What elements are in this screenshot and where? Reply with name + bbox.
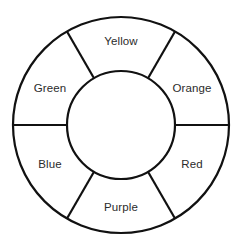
sector-label-yellow: Yellow <box>104 36 137 48</box>
spoke-300deg <box>148 172 175 219</box>
spoke-120deg <box>67 31 94 78</box>
sector-label-green: Green <box>34 83 66 95</box>
sector-label-red: Red <box>181 159 202 171</box>
color-wheel-diagram: Yellow Orange Red Purple Blue Green <box>0 0 242 251</box>
sector-label-orange: Orange <box>173 83 212 95</box>
sector-label-purple: Purple <box>104 202 138 214</box>
inner-circle-hub <box>67 71 175 179</box>
sector-label-blue: Blue <box>38 159 61 171</box>
spoke-240deg <box>67 172 94 219</box>
spoke-60deg <box>148 31 175 78</box>
